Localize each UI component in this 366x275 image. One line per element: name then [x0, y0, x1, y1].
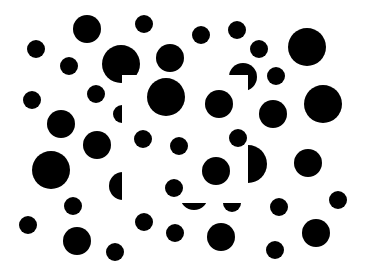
illusion-figure: Illusory contour dot pattern — [0, 0, 366, 275]
dot — [47, 110, 75, 138]
dot — [32, 151, 70, 189]
dot — [288, 28, 326, 66]
dot — [205, 90, 233, 118]
dot — [27, 40, 45, 58]
dot — [83, 131, 111, 159]
dot — [207, 223, 235, 251]
dot — [329, 191, 347, 209]
dot — [87, 85, 105, 103]
dot — [202, 157, 230, 185]
dot — [294, 149, 322, 177]
dot — [64, 197, 82, 215]
dot — [259, 100, 287, 128]
dot — [166, 224, 184, 242]
dot — [304, 85, 342, 123]
dot — [23, 91, 41, 109]
dot — [106, 243, 124, 261]
dot — [270, 198, 288, 216]
dot — [170, 137, 188, 155]
dot — [60, 57, 78, 75]
dot — [135, 15, 153, 33]
dot — [19, 216, 37, 234]
dot — [63, 227, 91, 255]
dot-pattern-canvas — [0, 0, 366, 275]
dot — [165, 179, 183, 197]
dot — [192, 26, 210, 44]
dot — [147, 78, 185, 116]
dot — [156, 44, 184, 72]
dot — [135, 213, 153, 231]
dot — [267, 67, 285, 85]
dot — [134, 130, 152, 148]
dot — [266, 241, 284, 259]
dot — [302, 219, 330, 247]
dot — [73, 15, 101, 43]
dot — [229, 129, 247, 147]
dot — [228, 21, 246, 39]
dot — [250, 40, 268, 58]
